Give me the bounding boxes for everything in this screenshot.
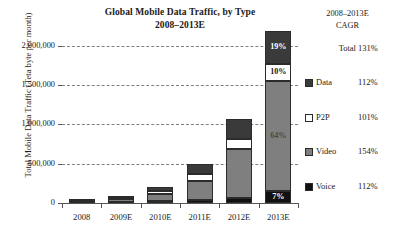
chart-title-line1: Global Mobile Data Traffic, by Type xyxy=(105,7,256,17)
y-tick-mark xyxy=(58,46,62,47)
chart-title: Global Mobile Data Traffic, by Type 2008… xyxy=(62,6,298,31)
legend-label-total: Total xyxy=(300,42,356,55)
x-tick-mark xyxy=(180,203,181,208)
bar-stack-2013E[interactable]: 7%64%10%19% xyxy=(265,30,291,203)
legend-cagr-voice: 112% xyxy=(358,180,392,193)
legend-label-voice: Voice xyxy=(316,180,356,193)
bar-stack-2010E[interactable] xyxy=(147,30,173,203)
bar-data-label-data-2013E: 19% xyxy=(265,43,291,51)
bar-segment-video-2009E[interactable] xyxy=(108,199,134,202)
legend-cagr-video: 154% xyxy=(358,145,392,158)
bar-segment-data-2008[interactable] xyxy=(69,199,95,201)
bar-stack-2012E[interactable] xyxy=(226,30,252,203)
x-tick-mark xyxy=(219,203,220,208)
legend-cagr-total: 131% xyxy=(358,42,392,55)
bar-segment-video-2010E[interactable] xyxy=(147,194,173,201)
y-tick-mark xyxy=(58,203,62,204)
x-tick-mark xyxy=(298,203,299,208)
bar-segment-data-2009E[interactable] xyxy=(108,196,134,198)
x-tick-mark xyxy=(62,203,63,208)
legend-swatch-video-icon xyxy=(305,148,313,156)
legend-header-period: 2008–2013E xyxy=(326,9,368,18)
gridline xyxy=(62,85,298,86)
x-tick-label-2013E: 2013E xyxy=(253,212,303,222)
y-tick-mark xyxy=(58,124,62,125)
x-tick-mark xyxy=(259,203,260,208)
legend-item-voice[interactable]: Voice112% xyxy=(300,180,395,194)
legend-item-video[interactable]: Video154% xyxy=(300,145,395,159)
legend-label-p2p: P2P xyxy=(316,111,356,124)
legend-item-data[interactable]: Data112% xyxy=(300,76,395,90)
bar-segment-data-2012E[interactable] xyxy=(226,119,252,139)
bar-data-label-voice-2013E: 7% xyxy=(265,193,291,201)
bar-data-label-p2p-2013E: 10% xyxy=(265,68,291,76)
x-tick-mark xyxy=(141,203,142,208)
chart-figure: Global Mobile Data Traffic, by Type 2008… xyxy=(0,0,395,242)
y-tick-label: 1,000,000 xyxy=(0,119,55,128)
bar-segment-data-2010E[interactable] xyxy=(147,187,173,191)
legend-header: 2008–2013E CAGR xyxy=(300,8,395,31)
legend-label-video: Video xyxy=(316,145,356,158)
bar-segment-video-2011E[interactable] xyxy=(187,181,213,200)
gridline xyxy=(62,164,298,165)
bar-segment-video-2012E[interactable] xyxy=(226,149,252,198)
bar-segment-p2p-2012E[interactable] xyxy=(226,139,252,150)
bar-segment-p2p-2011E[interactable] xyxy=(187,174,213,181)
y-tick-label: 2,000,000 xyxy=(0,41,55,50)
legend-swatch-data-icon xyxy=(305,79,313,87)
bar-stack-2008[interactable] xyxy=(69,30,95,203)
plot-area: 7%64%10%19% 20082009E2010E2011E2012E2013… xyxy=(62,30,298,203)
y-tick-label: 1,500,000 xyxy=(0,80,55,89)
y-tick-mark xyxy=(58,164,62,165)
legend-item-p2p[interactable]: P2P101% xyxy=(300,111,395,125)
gridline xyxy=(62,124,298,125)
y-tick-label: 0 xyxy=(0,198,55,207)
legend-header-cagr: CAGR xyxy=(300,20,395,32)
x-tick-mark xyxy=(101,203,102,208)
gridline xyxy=(62,46,298,47)
y-tick-label: 500,000 xyxy=(0,159,55,168)
legend-label-data: Data xyxy=(316,76,356,89)
bar-segment-p2p-2010E[interactable] xyxy=(147,191,173,194)
legend: 2008–2013E CAGR Total131%Data112%P2P101%… xyxy=(300,8,395,218)
bar-stack-2011E[interactable] xyxy=(187,30,213,203)
legend-cagr-p2p: 101% xyxy=(358,111,392,124)
legend-item-total[interactable]: Total131% xyxy=(300,42,395,56)
bar-segment-data-2011E[interactable] xyxy=(187,164,213,174)
y-tick-mark xyxy=(58,85,62,86)
legend-swatch-voice-icon xyxy=(305,183,313,191)
bar-data-label-video-2013E: 64% xyxy=(265,132,291,140)
legend-swatch-p2p-icon xyxy=(305,114,313,122)
legend-cagr-data: 112% xyxy=(358,76,392,89)
bar-stack-2009E[interactable] xyxy=(108,30,134,203)
